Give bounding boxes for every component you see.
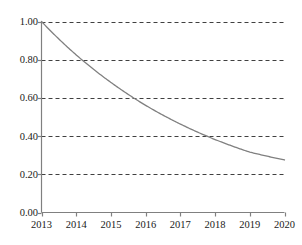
chart-plot-area — [0, 0, 302, 245]
x-axis-tick-label: 2015 — [94, 219, 128, 230]
y-axis-tick-label: 0.00 — [10, 207, 38, 218]
y-axis-tick-label: 0.40 — [10, 131, 38, 142]
x-axis-tick-label: 2016 — [129, 219, 163, 230]
x-axis-tick-label: 2017 — [163, 219, 197, 230]
x-axis-tick-label: 2013 — [25, 219, 59, 230]
y-axis-tick-label: 0.80 — [10, 54, 38, 65]
x-axis-tick-label: 2018 — [198, 219, 232, 230]
data-series-line — [42, 22, 285, 160]
x-axis-ticks-group — [43, 213, 286, 217]
y-axis-tick-label: 1.00 — [10, 16, 38, 27]
chart-container: 1.000.800.600.400.200.00 201320142015201… — [0, 0, 302, 245]
x-axis-tick-label: 2019 — [233, 219, 267, 230]
y-axis-tick-label: 0.60 — [10, 92, 38, 103]
x-axis-tick-label: 2014 — [59, 219, 93, 230]
x-axis-tick-label: 2020 — [268, 219, 302, 230]
y-axis-tick-label: 0.20 — [10, 169, 38, 180]
